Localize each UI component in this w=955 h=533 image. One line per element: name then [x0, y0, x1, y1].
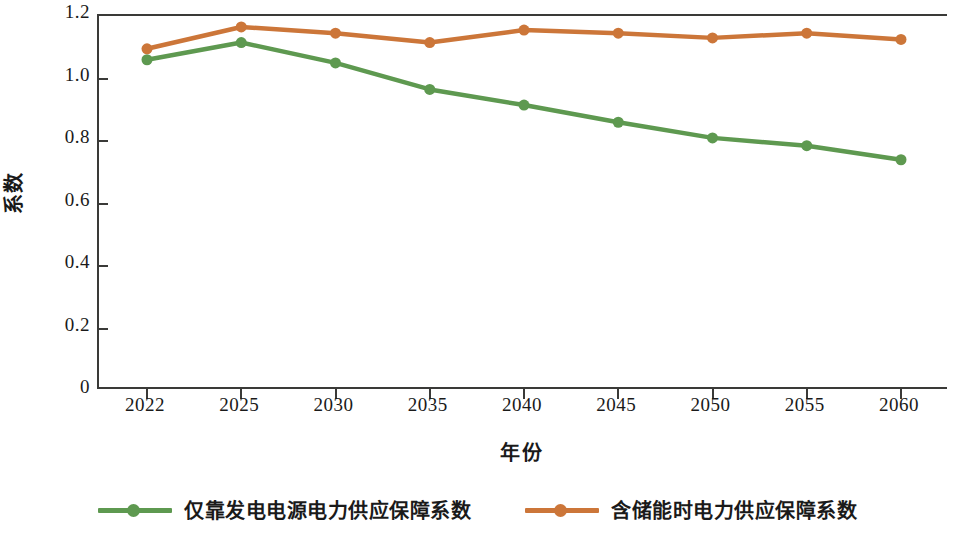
chart-legend: 仅靠发电电源电力供应保障系数含储能时电力供应保障系数 — [0, 495, 955, 524]
data-point — [236, 37, 247, 48]
data-point — [707, 32, 718, 43]
x-tick-label: 2035 — [383, 394, 473, 416]
legend-marker-icon — [98, 502, 172, 518]
legend-item[interactable]: 含储能时电力供应保障系数 — [525, 495, 857, 524]
series-2 — [142, 21, 907, 54]
data-point — [613, 117, 624, 128]
y-tick-label: 0.6 — [28, 189, 90, 211]
x-tick-label: 2045 — [571, 394, 661, 416]
data-point — [519, 25, 530, 36]
series-layer — [99, 16, 949, 391]
data-point — [801, 140, 812, 151]
line-chart: 系数 1.21.00.80.60.40.20 20222025203020352… — [0, 0, 955, 533]
y-tick-label: 1.0 — [28, 64, 90, 86]
data-point — [896, 34, 907, 45]
data-point — [424, 84, 435, 95]
y-tick-label: 0.2 — [28, 314, 90, 336]
data-point — [330, 57, 341, 68]
data-point — [236, 21, 247, 32]
x-tick-label: 2040 — [477, 394, 567, 416]
legend-dot — [554, 504, 567, 517]
y-axis-title: 系数 — [0, 158, 27, 228]
y-tick-label: 0 — [28, 376, 90, 398]
y-tick-label: 0.4 — [28, 251, 90, 273]
y-tick-label: 0.8 — [28, 126, 90, 148]
data-point — [424, 37, 435, 48]
x-tick-label: 2060 — [854, 394, 944, 416]
data-point — [330, 28, 341, 39]
data-point — [142, 43, 153, 54]
legend-dot — [127, 504, 140, 517]
x-tick-label: 2025 — [194, 394, 284, 416]
data-point — [613, 28, 624, 39]
data-point — [142, 54, 153, 65]
data-point — [801, 28, 812, 39]
x-tick-label: 2030 — [289, 394, 379, 416]
y-axis-tick-labels: 1.21.00.80.60.40.20 — [28, 0, 90, 400]
data-point — [896, 154, 907, 165]
plot-area — [97, 14, 947, 389]
series-1 — [142, 37, 907, 165]
y-tick-label: 1.2 — [28, 1, 90, 23]
x-tick-label: 2055 — [760, 394, 850, 416]
x-axis-title: 年份 — [97, 437, 947, 466]
x-tick-label: 2050 — [666, 394, 756, 416]
legend-marker-icon — [525, 502, 599, 518]
legend-item[interactable]: 仅靠发电电源电力供应保障系数 — [98, 495, 471, 524]
data-point — [519, 100, 530, 111]
legend-label: 含储能时电力供应保障系数 — [611, 495, 857, 524]
legend-label: 仅靠发电电源电力供应保障系数 — [184, 495, 471, 524]
x-tick-label: 2022 — [100, 394, 190, 416]
data-point — [707, 132, 718, 143]
